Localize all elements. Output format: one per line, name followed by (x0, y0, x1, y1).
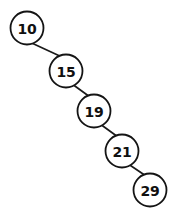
tree-node-29[interactable]: 29 (134, 174, 167, 207)
tree-node-15[interactable]: 15 (50, 55, 83, 88)
node-label: 29 (140, 183, 159, 199)
node-label: 10 (17, 21, 37, 37)
tree-diagram-canvas: 10 15 19 21 29 (0, 0, 188, 217)
tree-node-19[interactable]: 19 (78, 95, 111, 128)
binary-search-tree-graphic: 10 15 19 21 29 (0, 0, 188, 217)
node-label: 19 (84, 104, 103, 120)
tree-node-21[interactable]: 21 (106, 135, 139, 168)
node-label: 21 (112, 144, 131, 160)
tree-node-10[interactable]: 10 (11, 12, 44, 45)
edge-10-to-15 (30, 42, 64, 58)
node-group: 10 15 19 21 29 (11, 12, 167, 207)
node-label: 15 (56, 64, 75, 80)
